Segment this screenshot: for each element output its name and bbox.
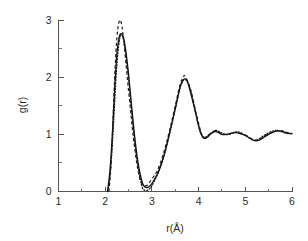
series-solid bbox=[108, 34, 292, 192]
figure-container: 123456 0123 r(Å) g(r) bbox=[0, 0, 308, 241]
x-tick-label: 4 bbox=[196, 195, 202, 207]
x-tick-label: 3 bbox=[149, 195, 155, 207]
x-tick-label: 5 bbox=[242, 195, 248, 207]
x-tick-label: 1 bbox=[56, 195, 62, 207]
y-tick-group bbox=[59, 20, 64, 192]
x-tick-label: 2 bbox=[102, 195, 108, 207]
series-dotted bbox=[108, 35, 290, 192]
rdf-plot: 123456 0123 r(Å) g(r) bbox=[0, 0, 308, 241]
y-axis-title: g(r) bbox=[16, 97, 28, 113]
x-tick-label: 6 bbox=[289, 195, 295, 207]
axes-group bbox=[58, 20, 292, 192]
x-axis-title: r(Å) bbox=[166, 222, 184, 234]
series-dashed bbox=[109, 20, 292, 192]
y-tick-label: 2 bbox=[46, 71, 52, 83]
y-tick-label: 1 bbox=[46, 128, 52, 140]
y-tick-label: 0 bbox=[46, 185, 52, 197]
x-tick-group bbox=[59, 187, 293, 192]
x-tick-label-group: 123456 bbox=[56, 195, 296, 207]
y-tick-label-group: 0123 bbox=[46, 14, 52, 198]
data-series-group bbox=[108, 20, 292, 192]
y-tick-label: 3 bbox=[46, 14, 52, 26]
